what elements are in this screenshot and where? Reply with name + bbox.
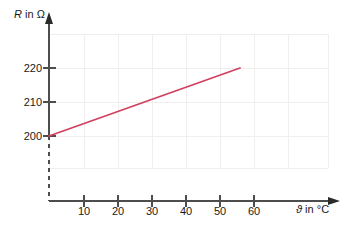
x-tick-label-wrap: 30 (137, 205, 167, 218)
y-axis-title-symbol: R (14, 8, 22, 20)
y-tick-label: 220 (0, 62, 42, 74)
x-tick-label: 60 (239, 205, 269, 217)
y-tick-label: 200 (0, 130, 42, 142)
x-tick-label: 40 (171, 205, 201, 217)
grid-lines (49, 34, 328, 168)
y-tick-label: 210 (0, 96, 42, 108)
y-axis-title-rest: in Ω (22, 8, 45, 20)
x-tick-label: 20 (103, 205, 133, 217)
y-tick-label-wrap: 200 (0, 130, 42, 142)
x-axis-arrow-icon (328, 197, 340, 205)
chart-canvas (0, 0, 350, 229)
y-tick-label-wrap: 220 (0, 62, 42, 74)
x-tick-label: 10 (69, 205, 99, 217)
y-tick-label-wrap: 210 (0, 96, 42, 108)
x-tick-label-wrap: 60 (239, 205, 269, 218)
resistance-temperature-chart: R in Ω ϑ in °C 220 210 200 10 20 30 40 5… (0, 0, 350, 229)
y-axis-arrow-icon (45, 12, 53, 24)
x-axis-title-rest: in °C (302, 203, 329, 215)
x-tick-label-wrap: 10 (69, 205, 99, 218)
y-axis-title: R in Ω (14, 8, 45, 20)
x-axis-title: ϑ in °C (296, 203, 329, 215)
x-tick-label-wrap: 40 (171, 205, 201, 218)
x-tick-label-wrap: 20 (103, 205, 133, 218)
x-tick-label: 30 (137, 205, 167, 217)
x-tick-label: 50 (205, 205, 235, 217)
x-tick-label-wrap: 50 (205, 205, 235, 218)
